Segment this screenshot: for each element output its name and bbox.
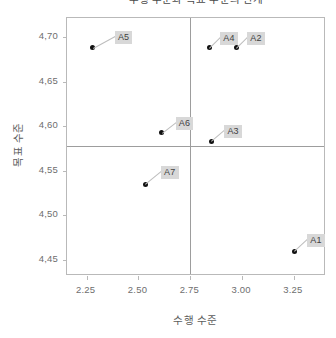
chart-title: 수행 수준과 목표 수준의 관계 xyxy=(66,0,326,6)
y-axis-title: 목표 수준 xyxy=(10,85,25,205)
y-axis-tick xyxy=(63,171,67,172)
x-axis-tick xyxy=(87,276,88,280)
y-axis-tick xyxy=(63,126,67,127)
point-label-a1[interactable]: A1 xyxy=(307,234,324,247)
leader-line-a4 xyxy=(209,37,221,49)
point-label-a2[interactable]: A2 xyxy=(247,32,264,45)
y-axis-tick xyxy=(63,260,67,261)
y-axis-tick-label: 4,65 xyxy=(2,75,58,86)
plot-area: A5A4A2A6A3A7A1 xyxy=(66,17,325,275)
horizontal-reference-line xyxy=(67,146,324,147)
point-label-a7[interactable]: A7 xyxy=(161,166,178,179)
point-label-a5[interactable]: A5 xyxy=(115,31,132,44)
x-axis-tick xyxy=(242,276,243,280)
y-axis-tick xyxy=(63,37,67,38)
x-axis-tick-label: 2.25 xyxy=(76,284,95,295)
y-axis-tick xyxy=(63,215,67,216)
leader-line-a1 xyxy=(294,239,308,252)
y-axis-tick-label: 4,50 xyxy=(2,208,58,219)
x-axis-tick xyxy=(138,276,139,280)
leader-line-a7 xyxy=(145,171,162,185)
y-axis-tick-label: 4,55 xyxy=(2,164,58,175)
x-axis-tick-label: 3.25 xyxy=(283,284,302,295)
y-axis-tick-label: 4,70 xyxy=(2,30,58,41)
x-axis-title: 수행 수준 xyxy=(66,312,325,327)
x-axis-tick-label: 2.50 xyxy=(128,284,147,295)
x-axis-tick xyxy=(294,276,295,280)
x-axis-tick-label: 3.00 xyxy=(231,284,250,295)
leader-line-a6 xyxy=(162,122,177,134)
point-label-a4[interactable]: A4 xyxy=(220,32,237,45)
x-axis-tick xyxy=(190,276,191,280)
x-axis-tick-label: 2.75 xyxy=(180,284,199,295)
y-axis-tick xyxy=(63,82,67,83)
leader-line-a2 xyxy=(236,37,248,49)
y-axis-tick-label: 4,45 xyxy=(2,253,58,264)
scatter-chart-figure: 수행 수준과 목표 수준의 관계 목표 수준 수행 수준 4,704,654,6… xyxy=(0,0,336,338)
leader-line-a5 xyxy=(93,36,115,49)
y-axis-tick-label: 4,60 xyxy=(2,119,58,130)
point-label-a3[interactable]: A3 xyxy=(224,125,241,138)
point-label-a6[interactable]: A6 xyxy=(176,117,193,130)
